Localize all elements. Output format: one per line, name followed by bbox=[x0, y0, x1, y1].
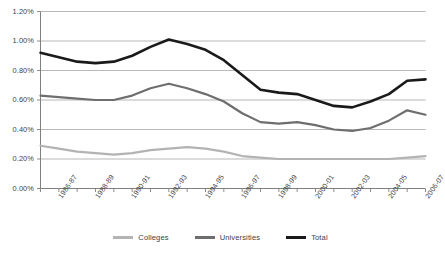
legend-swatch-total bbox=[286, 236, 306, 239]
legend-item-total[interactable]: Total bbox=[286, 233, 328, 242]
legend-swatch-universities bbox=[195, 236, 215, 239]
series-line-universities bbox=[41, 84, 426, 131]
y-tick-label: 1.00% bbox=[4, 36, 34, 45]
y-tick-label: 0.80% bbox=[4, 66, 34, 75]
y-tick-label: 0.40% bbox=[4, 125, 34, 134]
series-line-colleges bbox=[41, 146, 426, 159]
legend-label: Total bbox=[311, 233, 328, 242]
series-line-total bbox=[41, 40, 426, 108]
y-tick-label: 0.20% bbox=[4, 154, 34, 163]
legend-label: Universities bbox=[220, 233, 260, 242]
legend-item-colleges[interactable]: Colleges bbox=[113, 233, 168, 242]
legend-label: Colleges bbox=[138, 233, 168, 242]
chart-legend: CollegesUniversitiesTotal bbox=[0, 233, 441, 242]
y-tick-label: 1.20% bbox=[4, 7, 34, 16]
y-tick-label: 0.60% bbox=[4, 95, 34, 104]
legend-item-universities[interactable]: Universities bbox=[195, 233, 260, 242]
legend-swatch-colleges bbox=[113, 236, 133, 239]
y-tick-label: 0.00% bbox=[4, 184, 34, 193]
